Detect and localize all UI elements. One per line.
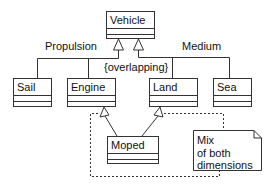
generalization-arrow-icon	[100, 107, 109, 117]
propulsion-label: Propulsion	[45, 40, 97, 52]
class-attributes	[14, 96, 51, 102]
generalization-arrow-icon	[114, 39, 124, 50]
overlapping-constraint: {overlapping}	[104, 61, 168, 73]
class-name: Land	[150, 79, 197, 96]
class-engine[interactable]: Engine	[67, 78, 116, 107]
class-sail[interactable]: Sail	[13, 78, 52, 107]
note-line: dimensions	[197, 159, 254, 172]
class-name: Sail	[14, 79, 51, 96]
moped-to-engine-line	[105, 116, 117, 136]
note-line: of both	[197, 147, 254, 160]
moped-to-land-line	[142, 116, 158, 136]
note-line: Mix	[197, 134, 254, 147]
class-name: Engine	[68, 79, 115, 96]
class-attributes	[68, 96, 115, 102]
class-sea[interactable]: Sea	[213, 78, 252, 107]
class-vehicle[interactable]: Vehicle	[106, 11, 155, 39]
class-moped[interactable]: Moped	[107, 136, 159, 164]
class-attributes	[214, 96, 251, 102]
overlap-region-dashed-top	[164, 114, 224, 131]
class-attributes	[108, 154, 158, 160]
class-land[interactable]: Land	[149, 78, 198, 107]
note[interactable]: Mix of both dimensions	[194, 131, 254, 170]
class-attributes	[107, 29, 154, 35]
class-name: Moped	[108, 137, 158, 154]
class-name: Vehicle	[107, 12, 154, 29]
class-name: Sea	[214, 79, 251, 96]
generalization-arrow-icon	[134, 39, 144, 50]
medium-label: Medium	[182, 40, 221, 52]
generalization-arrow-icon	[154, 107, 163, 117]
class-attributes	[150, 96, 197, 102]
